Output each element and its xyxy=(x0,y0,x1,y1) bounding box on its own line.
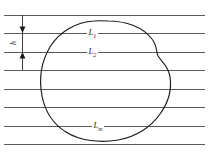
chord-label-L2: L2 xyxy=(87,47,98,58)
chord-label-Lm-subscript: m xyxy=(98,125,102,131)
dimension-arrow-top xyxy=(20,27,26,34)
dimension-group xyxy=(20,15,26,70)
chord-label-L1: L1 xyxy=(87,28,98,39)
figure-canvas xyxy=(0,0,209,156)
chord-label-L2-subscript: 2 xyxy=(93,51,96,57)
figure-container: h L1 L2 Lm xyxy=(0,0,209,156)
grid-lines-group xyxy=(4,16,205,145)
chord-label-Lm: Lm xyxy=(92,121,104,132)
dimension-label-h: h xyxy=(10,40,18,46)
closed-region-outline xyxy=(41,21,171,142)
region-outline-group xyxy=(41,21,171,142)
chord-label-L1-subscript: 1 xyxy=(93,32,96,38)
